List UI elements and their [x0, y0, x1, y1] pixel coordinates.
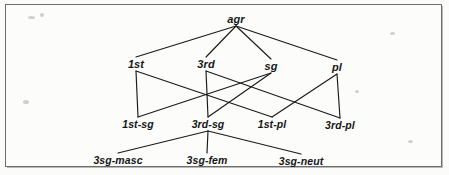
- edge-3rd-to-3rd-pl: [206, 71, 340, 118]
- edge-sg-to-3rd-sg: [208, 73, 271, 117]
- edge-pl-to-1st-pl: [272, 74, 337, 117]
- edge-1st-to-1st-pl: [136, 71, 272, 117]
- edge-pl-to-3rd-pl: [337, 74, 340, 118]
- edge-agr-to-pl: [236, 26, 337, 60]
- edge-3rd-sg-to-3sg-masc: [118, 131, 208, 153]
- node-1st-sg: 1st-sg: [122, 119, 154, 130]
- node-3sg-fem: 3sg-fem: [187, 155, 228, 166]
- node-sg: sg: [264, 61, 277, 72]
- diagram-figure: agr1st3rdsgpl1st-sg3rd-sg1st-pl3rd-pl3sg…: [0, 0, 449, 175]
- edge-agr-to-sg: [236, 26, 271, 59]
- node-pl: pl: [332, 62, 342, 73]
- node-3sg-neut: 3sg-neut: [279, 156, 324, 167]
- node-3rd-pl: 3rd-pl: [325, 120, 355, 131]
- node-1st-pl: 1st-pl: [258, 119, 287, 130]
- diagram-edges: [0, 0, 449, 175]
- node-agr: agr: [227, 14, 244, 25]
- node-1st: 1st: [128, 59, 144, 70]
- node-3rd: 3rd: [197, 59, 214, 70]
- node-3sg-masc: 3sg-masc: [93, 155, 142, 166]
- edge-3rd-sg-to-3sg-fem: [207, 131, 208, 153]
- node-3rd-sg: 3rd-sg: [192, 119, 225, 130]
- edge-3rd-sg-to-3sg-neut: [208, 131, 301, 154]
- edge-1st-to-1st-sg: [136, 71, 138, 117]
